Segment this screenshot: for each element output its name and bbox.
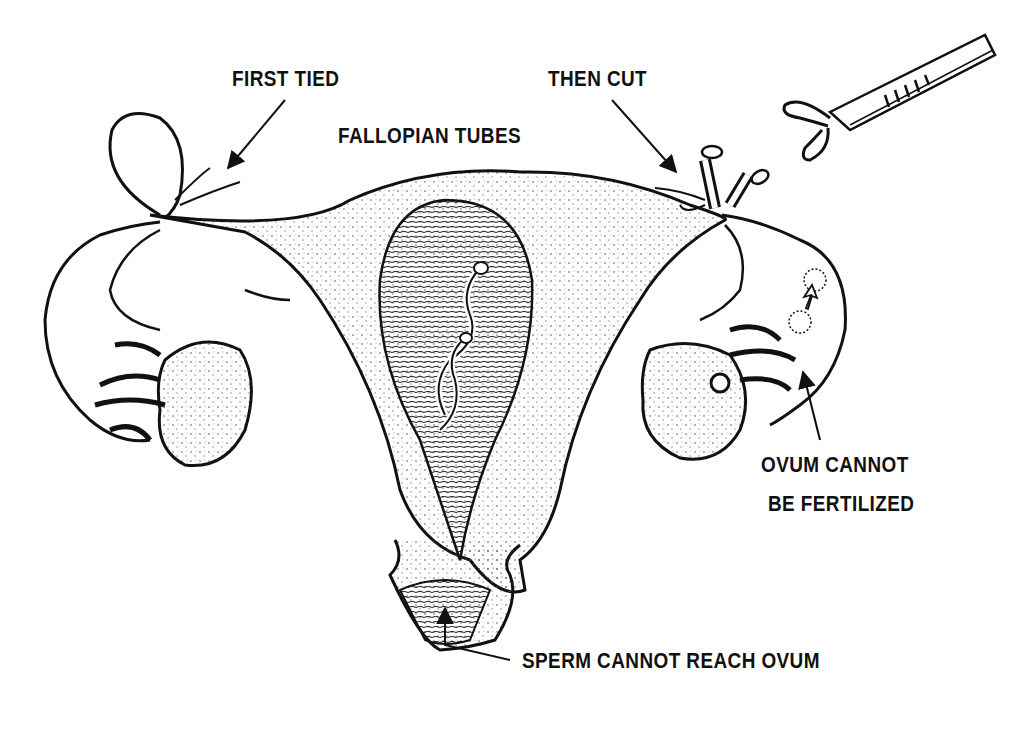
ovum-label-line2: BE FERTILIZED [768, 491, 914, 517]
fallopian-tubes-label: FALLOPIAN TUBES [338, 123, 521, 149]
then-cut-arrow [612, 100, 676, 172]
sperm-label: SPERM CANNOT REACH OVUM [522, 648, 820, 674]
first-tied-arrow [228, 100, 285, 168]
tubal-ligation-diagram: FIRST TIED THEN CUT FALLOPIAN TUBES OVUM… [0, 0, 1029, 735]
ligation-forceps-icon [784, 35, 995, 160]
right-fallopian-tube [642, 146, 845, 459]
ovum-label-line1: OVUM CANNOT [761, 452, 909, 478]
left-fallopian-tube [45, 114, 290, 466]
first-tied-label: FIRST TIED [232, 66, 339, 92]
ovum-arrow [803, 372, 820, 440]
then-cut-label: THEN CUT [548, 66, 647, 92]
diagram-illustration [0, 0, 1029, 735]
